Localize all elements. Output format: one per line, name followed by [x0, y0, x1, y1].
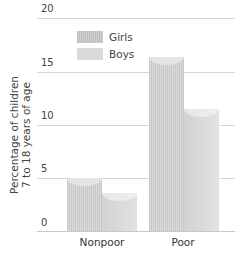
- bar-poor-girls: [149, 57, 184, 231]
- bar-chart: 20 15 10 5 0 Percentage of children7 to …: [0, 0, 245, 255]
- y-tick-10: 10: [41, 110, 54, 121]
- legend-item-boys: Boys: [77, 47, 134, 61]
- gridline-15: [37, 72, 235, 73]
- bar-nonpoor-boys: [102, 193, 137, 231]
- y-tick-20: 20: [41, 3, 54, 14]
- legend-swatch-boys: [77, 48, 103, 60]
- gridline-20: [37, 18, 235, 19]
- legend-label-boys: Boys: [109, 48, 134, 60]
- legend-item-girls: Girls: [77, 30, 133, 44]
- y-tick-15: 15: [41, 57, 54, 68]
- y-tick-5: 5: [41, 163, 47, 174]
- y-axis-label-line2: 7 to 18 years of age: [20, 76, 32, 194]
- x-label-poor: Poor: [158, 236, 208, 248]
- bar-poor-boys: [184, 109, 219, 231]
- legend-label-girls: Girls: [109, 31, 133, 43]
- y-tick-0: 0: [41, 217, 47, 228]
- legend-swatch-girls: [77, 31, 103, 43]
- bar-nonpoor-girls: [67, 178, 102, 231]
- baseline-0: [37, 231, 235, 232]
- y-axis-label: Percentage of children7 to 18 years of a…: [2, 60, 38, 210]
- x-label-nonpoor: Nonpoor: [72, 236, 132, 248]
- y-axis-label-line1: Percentage of children: [8, 76, 20, 194]
